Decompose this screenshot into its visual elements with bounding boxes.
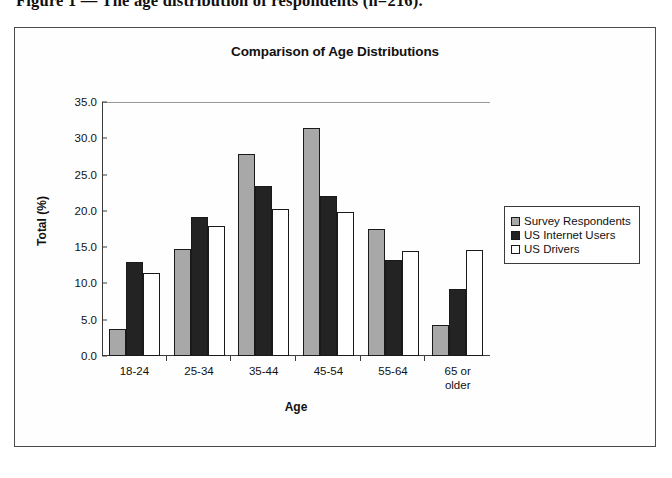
- bar: [368, 229, 385, 356]
- bar: [432, 325, 449, 356]
- bar: [191, 217, 208, 356]
- bar: [385, 260, 402, 356]
- bar-group: [167, 102, 232, 356]
- x-axis-tick-label: 18-24: [102, 364, 167, 392]
- bar-group: [102, 102, 167, 356]
- chart-frame: Comparison of Age Distributions 35.030.0…: [14, 27, 656, 447]
- x-axis-tick-mark: [361, 356, 426, 362]
- bar: [466, 250, 483, 356]
- x-axis-tick-labels: 18-2425-3435-4445-5455-6465 orolder: [102, 364, 490, 392]
- x-axis-tick-label: 55-64: [361, 364, 426, 392]
- bar: [143, 273, 160, 356]
- bar: [449, 289, 466, 356]
- figure-caption: Figure 1 — The age distribution of respo…: [16, 0, 656, 13]
- x-axis-tick-mark: [102, 356, 167, 362]
- bar: [109, 329, 126, 356]
- x-axis-tick-mark: [296, 356, 361, 362]
- y-axis-tick-label: 5.0: [81, 314, 97, 326]
- x-axis-tick-mark: [425, 356, 490, 362]
- x-axis-tick-marks: [102, 356, 490, 362]
- x-axis-title: Age: [102, 400, 490, 414]
- bar: [255, 186, 272, 356]
- bar: [402, 251, 419, 356]
- bar: [303, 128, 320, 356]
- y-axis-tick-label: 30.0: [75, 132, 97, 144]
- bar-group: [361, 102, 426, 356]
- x-axis-tick-label-line: 35-44: [231, 364, 296, 378]
- legend-swatch-icon: [511, 245, 520, 254]
- bar-group: [296, 102, 361, 356]
- x-axis-tick-label: 65 orolder: [425, 364, 490, 392]
- bar: [126, 262, 143, 356]
- chart-legend: Survey RespondentsUS Internet UsersUS Dr…: [504, 206, 640, 264]
- chart-title: Comparison of Age Distributions: [15, 44, 655, 59]
- y-axis-title: Total (%): [35, 176, 49, 266]
- legend-item[interactable]: Survey Respondents: [511, 215, 631, 227]
- x-axis-tick-label: 35-44: [231, 364, 296, 392]
- bar-group: [425, 102, 490, 356]
- legend-item[interactable]: US Drivers: [511, 243, 631, 255]
- bar-series-container: [102, 102, 490, 356]
- x-axis-tick-mark: [167, 356, 232, 362]
- x-axis-tick-label-line: older: [425, 378, 490, 392]
- y-axis-tick-label: 20.0: [75, 205, 97, 217]
- legend-swatch-icon: [511, 217, 520, 226]
- y-axis-tick-label: 15.0: [75, 241, 97, 253]
- legend-swatch-icon: [511, 231, 520, 240]
- legend-label: US Drivers: [524, 243, 580, 255]
- bar: [337, 212, 354, 356]
- y-axis-tick-label: 35.0: [75, 96, 97, 108]
- legend-label: Survey Respondents: [524, 215, 631, 227]
- y-axis-tick-labels: 35.030.025.020.015.010.05.00.0: [45, 102, 97, 356]
- y-axis-tick-label: 0.0: [81, 350, 97, 362]
- bar-group: [231, 102, 296, 356]
- bar: [174, 249, 191, 356]
- bar: [238, 154, 255, 356]
- x-axis-tick-label-line: 65 or: [425, 364, 490, 378]
- legend-item[interactable]: US Internet Users: [511, 229, 631, 241]
- y-axis-tick-label: 25.0: [75, 169, 97, 181]
- x-axis-tick-label-line: 25-34: [167, 364, 232, 378]
- x-axis-tick-label: 45-54: [296, 364, 361, 392]
- x-axis-tick-label-line: 45-54: [296, 364, 361, 378]
- x-axis-tick-mark: [231, 356, 296, 362]
- x-axis-tick-label-line: 55-64: [361, 364, 426, 378]
- legend-label: US Internet Users: [524, 229, 615, 241]
- bar: [272, 209, 289, 356]
- x-axis-tick-label: 25-34: [167, 364, 232, 392]
- bar: [208, 226, 225, 356]
- y-axis-tick-label: 10.0: [75, 277, 97, 289]
- bar: [320, 196, 337, 356]
- x-axis-tick-label-line: 18-24: [102, 364, 167, 378]
